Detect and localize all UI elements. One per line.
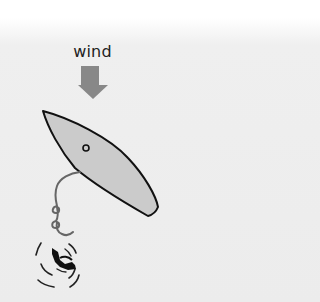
wind-arrow-icon <box>78 66 108 99</box>
throw-line-icon <box>52 172 80 235</box>
person-in-water-icon <box>36 243 79 287</box>
diagram-scene <box>0 0 185 302</box>
sailboat-icon <box>43 111 158 216</box>
